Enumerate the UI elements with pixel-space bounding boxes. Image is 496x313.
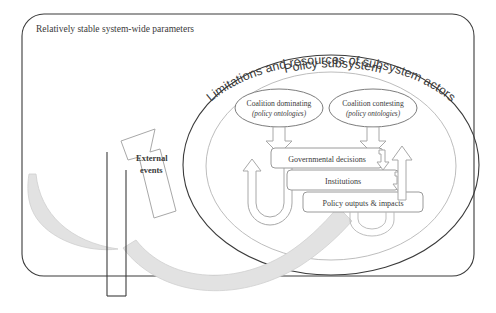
institutions-label: Institutions xyxy=(325,177,361,186)
external-events-label-line1: External xyxy=(136,153,168,163)
feedback-loop-bottom-outer xyxy=(350,212,394,236)
policy-outputs-label: Policy outputs & impacts xyxy=(322,199,403,208)
coalition-dominating-subtitle: (policy ontologies) xyxy=(252,110,307,118)
coalition-dominating-name: Coalition dominating xyxy=(247,99,312,108)
governmental-decisions-box[interactable]: Governmental decisions xyxy=(271,148,383,168)
coalition-contesting-oval xyxy=(329,89,417,127)
acf-diagram: Relatively stable system-wide parameters… xyxy=(0,0,496,313)
policy-subsystem-label: Policy subsystem xyxy=(283,56,384,76)
external-events-swoosh-left xyxy=(28,174,118,250)
diagram-canvas: Relatively stable system-wide parameters… xyxy=(0,0,496,313)
governmental-decisions-label: Governmental decisions xyxy=(288,155,366,164)
coalition-dominating-oval xyxy=(235,89,323,127)
feedback-loop-bottom-inner xyxy=(358,212,386,229)
coalition-contesting[interactable]: Coalition contesting (policy ontologies) xyxy=(329,89,417,127)
coalition-contesting-subtitle: (policy ontologies) xyxy=(346,110,401,118)
external-events-swoosh-right xyxy=(123,207,352,291)
coalition-dominating[interactable]: Coalition dominating (policy ontologies) xyxy=(235,89,323,127)
stable-parameters-label: Relatively stable system-wide parameters xyxy=(36,24,194,34)
institutions-box[interactable]: Institutions xyxy=(287,170,399,190)
external-events-label-line2: events xyxy=(140,165,163,175)
coalition-contesting-name: Coalition contesting xyxy=(342,99,404,108)
